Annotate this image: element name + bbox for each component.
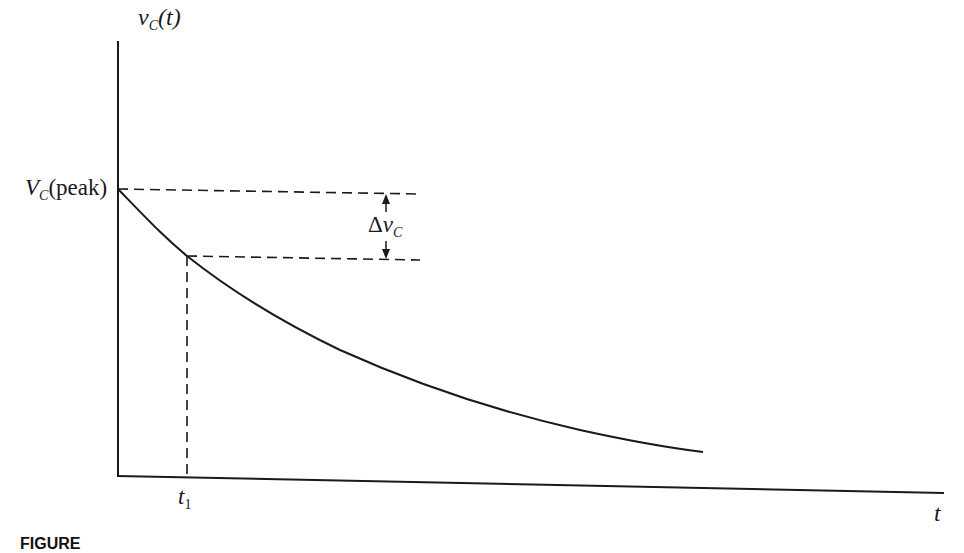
peak-label-main: V bbox=[25, 175, 39, 200]
t1-label: t1 bbox=[178, 484, 191, 510]
figure-caption: FIGURE bbox=[20, 535, 80, 553]
peak-label-suffix: (peak) bbox=[48, 175, 107, 200]
peak-dashed-line bbox=[118, 189, 420, 194]
y-label-main: v bbox=[138, 4, 149, 30]
x-axis-label: t bbox=[934, 500, 941, 527]
peak-label-subscript: C bbox=[39, 188, 48, 203]
y-label-subscript: C bbox=[149, 18, 158, 33]
delta-main: v bbox=[383, 212, 393, 237]
delta-symbol: Δ bbox=[368, 212, 383, 237]
t1-subscript: 1 bbox=[184, 497, 191, 512]
peak-label: VC(peak) bbox=[25, 175, 107, 201]
decay-curve bbox=[118, 189, 703, 452]
x-axis bbox=[117, 476, 944, 493]
delta-subscript: C bbox=[393, 225, 402, 240]
y-label-suffix: (t) bbox=[158, 4, 181, 30]
y-axis-label: vC(t) bbox=[138, 4, 181, 31]
delta-label: ΔvC bbox=[368, 212, 402, 238]
